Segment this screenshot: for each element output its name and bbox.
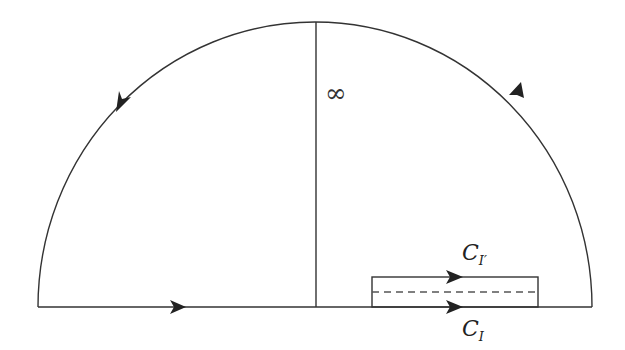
arrow-up-left-icon [509,82,524,98]
upper-contour-label: CI′ [462,240,487,268]
lower-contour-subscript: I [479,329,484,344]
contour-diagram [0,0,625,350]
semicircle-arc [38,22,592,307]
upper-contour-subscript: I′ [479,253,487,268]
upper-contour-letter: C [462,240,479,265]
infinity-label: ∞ [325,78,347,108]
arrow-down-left-icon [116,91,131,112]
lower-contour-label: CI [462,316,484,344]
lower-contour-letter: C [462,316,479,341]
